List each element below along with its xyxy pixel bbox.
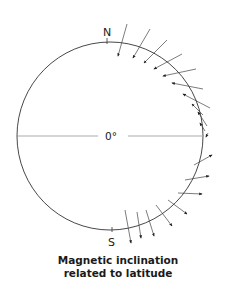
south-arrow-1: [194, 155, 212, 165]
north-arrow-11: [206, 133, 208, 137]
north-arrow-1: [118, 24, 127, 56]
caption-line-2: related to latitude: [0, 267, 236, 280]
equator-label: 0°: [105, 130, 117, 142]
north-arrow-2: [133, 29, 150, 58]
north-label: N: [103, 26, 111, 39]
south-arrow-2: [185, 176, 209, 180]
north-arrow-8: [192, 104, 203, 115]
south-label: S: [108, 236, 115, 249]
inclination-arrows: [118, 24, 212, 243]
south-arrow-8: [125, 210, 131, 243]
caption: Magnetic inclination related to latitude: [0, 254, 236, 280]
north-arrow-5: [163, 69, 196, 76]
south-arrow-6: [146, 210, 154, 236]
north-arrow-4: [154, 54, 182, 69]
south-arrow-3: [178, 193, 202, 194]
north-arrow-7: [183, 94, 210, 108]
caption-line-1: Magnetic inclination: [0, 254, 236, 267]
inclination-diagram: N S 0°: [0, 0, 236, 294]
